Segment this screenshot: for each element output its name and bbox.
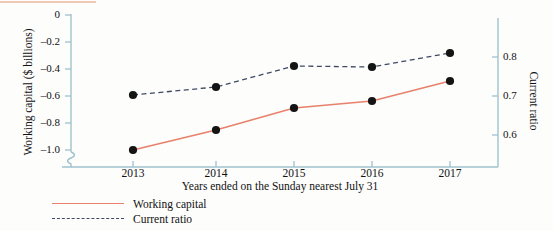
x-axis-title: Years ended on the Sunday nearest July 3… — [60, 180, 500, 192]
series-line-working-capital — [133, 81, 450, 150]
legend-label-current-ratio: Current ratio — [133, 213, 192, 225]
chart-legend: Working capital Current ratio — [52, 196, 206, 226]
series-line-current-ratio — [133, 53, 450, 95]
series-markers-working-capital — [129, 77, 454, 154]
axis-break-icon — [68, 152, 75, 167]
x-tick-label-2017: 2017 — [420, 167, 480, 179]
legend-item-current-ratio: Current ratio — [52, 211, 206, 226]
right-tick-marks — [492, 57, 498, 135]
left-axis-title: Working capital ($ billions) — [22, 17, 34, 167]
chart-figure: 0 –0.2 –0.4 –0.6 –0.8 –1.0 0.8 0.7 0.6 2… — [0, 0, 553, 231]
x-tick-label-2015: 2015 — [264, 167, 324, 179]
legend-item-working-capital: Working capital — [52, 196, 206, 211]
x-tick-label-2016: 2016 — [342, 167, 402, 179]
legend-line-dashed-icon — [52, 218, 124, 220]
legend-label-working-capital: Working capital — [133, 198, 206, 210]
x-tick-label-2013: 2013 — [103, 167, 163, 179]
right-axis-title: Current ratio — [528, 26, 540, 176]
legend-line-solid-icon — [52, 203, 124, 205]
x-tick-label-2014: 2014 — [186, 167, 246, 179]
series-markers-current-ratio — [129, 49, 454, 99]
left-tick-marks — [65, 15, 71, 150]
